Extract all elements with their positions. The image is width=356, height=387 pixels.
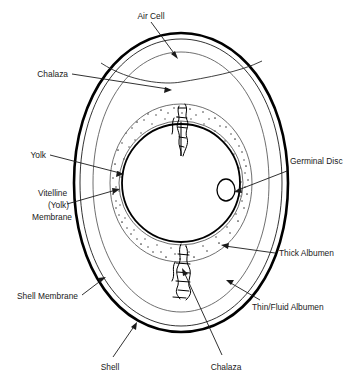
label-thin-fluid-albumen: Thin/Fluid Albumen	[252, 302, 324, 312]
leader-shell	[113, 322, 137, 357]
label-chalaza-bottom: Chalaza	[211, 362, 242, 372]
label-shell-membrane: Shell Membrane	[17, 291, 78, 301]
label-shell: Shell	[101, 362, 120, 372]
label-vitelline-membrane-line1: Vitelline	[38, 188, 68, 198]
label-air-cell: Air Cell	[138, 11, 165, 21]
label-vitelline-membrane-line3: Membrane	[32, 212, 72, 222]
label-vitelline-membrane-line2: (Yolk)	[48, 200, 69, 210]
germinal-disc-spot	[217, 179, 235, 201]
label-chalaza-top: Chalaza	[37, 69, 68, 79]
egg-anatomy-diagram: Air Cell Chalaza Yolk Vitelline (Yolk) M…	[0, 0, 356, 387]
label-yolk: Yolk	[30, 150, 46, 160]
label-thick-albumen: Thick Albumen	[279, 248, 334, 258]
label-germinal-disc: Germinal Disc	[290, 156, 343, 166]
